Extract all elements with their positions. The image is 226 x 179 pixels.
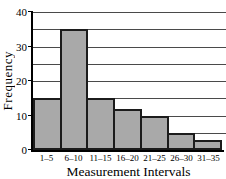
bar-21-25 xyxy=(140,116,169,151)
x-category-label-6-10: 6–10 xyxy=(65,154,83,163)
y-tick-label-30: 30 xyxy=(16,41,27,52)
bar-26-30 xyxy=(167,133,196,150)
y-tick-label-20: 20 xyxy=(16,76,27,87)
bars-group xyxy=(33,12,222,150)
y-tick-mark-0 xyxy=(28,149,33,150)
bar-6-10 xyxy=(60,29,89,150)
y-tick-mark-20 xyxy=(28,80,33,81)
y-tick-label-10: 10 xyxy=(16,110,27,121)
histogram-figure: Frequency 0102030401–56–1011–1516–2021–2… xyxy=(0,0,226,179)
y-tick-label-0: 0 xyxy=(22,145,28,156)
bar-11-15 xyxy=(86,98,115,150)
x-category-label-1-5: 1–5 xyxy=(40,154,54,163)
x-axis-title: Measurement Intervals xyxy=(31,165,226,179)
y-tick-mark-40 xyxy=(28,11,33,12)
y-axis-title-wrap: Frequency xyxy=(0,12,16,150)
y-axis-title: Frequency xyxy=(0,51,16,110)
y-tick-mark-30 xyxy=(28,46,33,47)
y-tick-label-40: 40 xyxy=(16,7,27,18)
plot-area: 0102030401–56–1011–1516–2021–2526–3031–3… xyxy=(31,12,224,152)
y-tick-mark-10 xyxy=(28,115,33,116)
x-category-label-26-30: 26–30 xyxy=(170,154,193,163)
x-category-label-16-20: 16–20 xyxy=(116,154,139,163)
x-category-label-31-35: 31–35 xyxy=(197,154,220,163)
bar-16-20 xyxy=(113,109,142,150)
bar-1-5 xyxy=(33,98,62,150)
x-category-label-21-25: 21–25 xyxy=(143,154,166,163)
x-category-label-11-15: 11–15 xyxy=(89,154,111,163)
bar-31-35 xyxy=(193,140,222,150)
